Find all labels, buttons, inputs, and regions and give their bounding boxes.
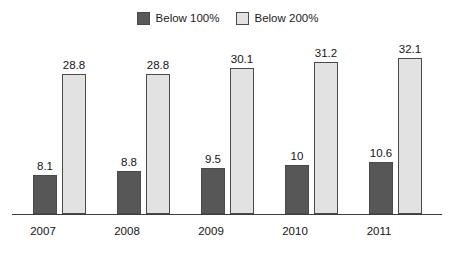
- bar-value-label: 8.1: [23, 160, 67, 172]
- x-tick-label-2007: 2007: [16, 224, 70, 238]
- bar-value-label: 28.8: [52, 59, 96, 71]
- bar-chart: Below 100% Below 200% 8.1 28.8 2007 8.8: [0, 0, 455, 254]
- bar-rect: [62, 74, 86, 214]
- bar-rect: [230, 68, 254, 214]
- bar-rect: [314, 62, 338, 214]
- bar-rect: [201, 168, 225, 214]
- x-tick-label-2009: 2009: [184, 224, 238, 238]
- bar-value-label: 30.1: [220, 53, 264, 65]
- bar-rect: [369, 162, 393, 214]
- bar-value-label: 8.8: [107, 156, 151, 168]
- bar-rect: [117, 171, 141, 214]
- x-tick-label-2008: 2008: [100, 224, 154, 238]
- bar-rect: [146, 74, 170, 214]
- x-tick-label-2011: 2011: [352, 224, 406, 238]
- bar-rect: [398, 58, 422, 214]
- x-tick-label-2010: 2010: [268, 224, 322, 238]
- plot-area: 8.1 28.8 2007 8.8 28.8 2008 9.5: [0, 0, 455, 254]
- bar-value-label: 10.6: [359, 147, 403, 159]
- bar-value-label: 31.2: [304, 47, 348, 59]
- bar-rect: [33, 175, 57, 214]
- bar-rect: [285, 165, 309, 214]
- x-axis-line: [12, 214, 442, 215]
- bar-value-label: 28.8: [136, 59, 180, 71]
- bar-value-label: 32.1: [388, 43, 432, 55]
- bar-value-label: 10: [275, 150, 319, 162]
- bar-value-label: 9.5: [191, 153, 235, 165]
